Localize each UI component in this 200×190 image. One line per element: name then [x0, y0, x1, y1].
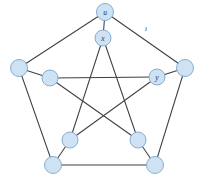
node-circle[interactable]	[149, 69, 165, 85]
graph-node[interactable]	[45, 157, 62, 174]
graph-node[interactable]	[11, 60, 28, 77]
graph-node[interactable]	[177, 60, 194, 77]
node-circle[interactable]	[130, 132, 146, 148]
graph-edge	[19, 12, 105, 68]
edge-labels-layer: i	[145, 25, 147, 33]
edge-label-i: i	[145, 25, 147, 33]
graph-node[interactable]	[62, 132, 78, 148]
node-circle[interactable]	[177, 60, 194, 77]
graph-node-x[interactable]: x	[95, 30, 111, 46]
graph-node-y[interactable]: y	[149, 69, 165, 85]
nodes-layer: uxy	[11, 4, 194, 174]
node-circle[interactable]	[62, 132, 78, 148]
graph-node[interactable]	[130, 132, 146, 148]
graph-edge	[50, 77, 157, 78]
node-circle[interactable]	[95, 30, 111, 46]
graph-edge	[70, 38, 103, 140]
node-circle[interactable]	[97, 4, 114, 21]
graph-node[interactable]	[147, 157, 164, 174]
graph-edge	[105, 12, 185, 68]
graph-edge	[103, 38, 138, 140]
graph-node[interactable]	[42, 70, 58, 86]
petersen-graph-canvas: uxy i	[0, 0, 200, 190]
node-circle[interactable]	[42, 70, 58, 86]
node-circle[interactable]	[147, 157, 164, 174]
graph-edge	[50, 78, 138, 140]
graph-figure: uxy i	[0, 0, 200, 190]
graph-edge	[70, 77, 157, 140]
node-circle[interactable]	[45, 157, 62, 174]
graph-node-u[interactable]: u	[97, 4, 114, 21]
node-circle[interactable]	[11, 60, 28, 77]
